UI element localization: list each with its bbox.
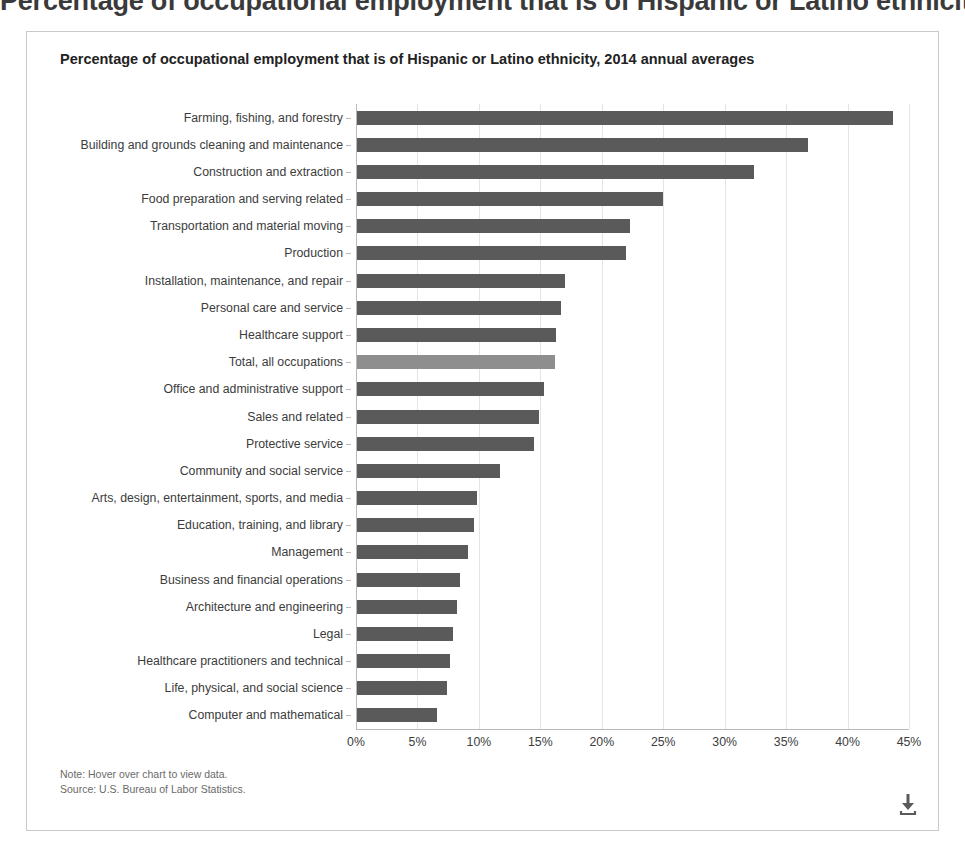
- bar[interactable]: [357, 382, 544, 396]
- x-tick-label: 40%: [828, 735, 868, 749]
- note-line: Note: Hover over chart to view data.: [60, 767, 246, 782]
- category-tick: [346, 634, 351, 635]
- bar[interactable]: [357, 573, 460, 587]
- x-axis-line: [356, 729, 909, 730]
- category-tick: [346, 281, 351, 282]
- plot: Farming, fishing, and forestryBuilding a…: [27, 32, 940, 832]
- category-tick: [346, 498, 351, 499]
- screenshot-root: Percentage of occupational employment th…: [0, 0, 965, 863]
- category-label: Production: [53, 246, 343, 260]
- category-tick: [346, 308, 351, 309]
- category-tick: [346, 417, 351, 418]
- category-tick: [346, 199, 351, 200]
- category-tick: [346, 253, 351, 254]
- category-label: Office and administrative support: [53, 382, 343, 396]
- x-tick-label: 30%: [705, 735, 745, 749]
- category-label: Installation, maintenance, and repair: [53, 274, 343, 288]
- category-label: Construction and extraction: [53, 165, 343, 179]
- category-tick: [346, 118, 351, 119]
- category-label: Healthcare practitioners and technical: [53, 654, 343, 668]
- bar[interactable]: [357, 518, 474, 532]
- bar[interactable]: [357, 654, 450, 668]
- x-tick-label: 15%: [520, 735, 560, 749]
- category-tick: [346, 335, 351, 336]
- category-tick: [346, 525, 351, 526]
- category-tick: [346, 362, 351, 363]
- x-tick-label: 25%: [643, 735, 683, 749]
- category-label: Business and financial operations: [53, 573, 343, 587]
- category-label: Sales and related: [53, 410, 343, 424]
- bar[interactable]: [357, 627, 453, 641]
- category-tick: [346, 471, 351, 472]
- bar[interactable]: [357, 545, 468, 559]
- category-label: Farming, fishing, and forestry: [53, 111, 343, 125]
- category-label: Community and social service: [53, 464, 343, 478]
- bar[interactable]: [357, 708, 437, 722]
- category-tick: [346, 444, 351, 445]
- chart-footnotes: Note: Hover over chart to view data. Sou…: [60, 767, 246, 797]
- bar[interactable]: [357, 246, 626, 260]
- plot-area: [356, 104, 909, 729]
- category-label: Management: [53, 545, 343, 559]
- x-tick-label: 45%: [889, 735, 929, 749]
- bar[interactable]: [357, 111, 893, 125]
- category-axis: Farming, fishing, and forestryBuilding a…: [47, 104, 351, 729]
- bar[interactable]: [357, 165, 754, 179]
- x-tick-label: 0%: [336, 735, 376, 749]
- category-tick: [346, 661, 351, 662]
- category-label: Food preparation and serving related: [53, 192, 343, 206]
- x-tick-label: 5%: [397, 735, 437, 749]
- category-label: Transportation and material moving: [53, 219, 343, 233]
- category-tick: [346, 580, 351, 581]
- category-tick: [346, 715, 351, 716]
- category-tick: [346, 226, 351, 227]
- category-tick: [346, 607, 351, 608]
- bar[interactable]: [357, 437, 534, 451]
- category-tick: [346, 172, 351, 173]
- bar[interactable]: [357, 410, 539, 424]
- gridline-40: [848, 104, 849, 729]
- bar[interactable]: [357, 600, 457, 614]
- bar[interactable]: [357, 274, 565, 288]
- category-label: Total, all occupations: [53, 355, 343, 369]
- gridline-35: [786, 104, 787, 729]
- x-axis-tick-labels: 0%5%10%15%20%25%30%35%40%45%: [356, 735, 909, 755]
- bar[interactable]: [357, 681, 447, 695]
- x-tick-label: 35%: [766, 735, 806, 749]
- bar[interactable]: [357, 328, 556, 342]
- category-label: Healthcare support: [53, 328, 343, 342]
- gridline-30: [725, 104, 726, 729]
- category-label: Education, training, and library: [53, 518, 343, 532]
- category-tick: [346, 552, 351, 553]
- source-line: Source: U.S. Bureau of Labor Statistics.: [60, 782, 246, 797]
- category-label: Personal care and service: [53, 301, 343, 315]
- bar[interactable]: [357, 138, 808, 152]
- bar[interactable]: [357, 192, 663, 206]
- category-tick: [346, 145, 351, 146]
- category-tick: [346, 688, 351, 689]
- bar[interactable]: [357, 464, 500, 478]
- category-label: Building and grounds cleaning and mainte…: [53, 138, 343, 152]
- bar[interactable]: [357, 355, 555, 369]
- category-label: Computer and mathematical: [53, 708, 343, 722]
- category-label: Architecture and engineering: [53, 600, 343, 614]
- category-label: Protective service: [53, 437, 343, 451]
- bar[interactable]: [357, 219, 630, 233]
- category-label: Legal: [53, 627, 343, 641]
- category-label: Life, physical, and social science: [53, 681, 343, 695]
- bar[interactable]: [357, 301, 561, 315]
- bar[interactable]: [357, 491, 477, 505]
- gridline-25: [663, 104, 664, 729]
- category-label: Arts, design, entertainment, sports, and…: [53, 491, 343, 505]
- x-tick-label: 10%: [459, 735, 499, 749]
- chart-panel: Percentage of occupational employment th…: [26, 31, 939, 831]
- gridline-45: [909, 104, 910, 729]
- x-tick-label: 20%: [582, 735, 622, 749]
- clipped-page-heading: Percentage of occupational employment th…: [0, 0, 965, 16]
- category-tick: [346, 389, 351, 390]
- download-icon[interactable]: [893, 789, 923, 819]
